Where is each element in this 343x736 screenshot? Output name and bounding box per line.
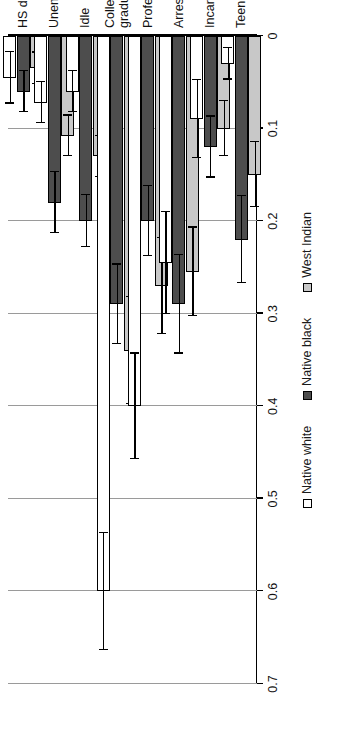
error-bar-line: [86, 195, 87, 247]
error-bar-line: [68, 116, 69, 157]
legend-item-native-black: Native black: [300, 318, 314, 400]
error-bar-cap: [237, 195, 246, 196]
category-label-unemployed: Unemployed: [39, 0, 70, 28]
gridline-0.7: [8, 683, 257, 684]
category-label-professional: Professional: [133, 0, 164, 28]
error-bar-cap: [237, 282, 246, 283]
error-bar-cap: [50, 232, 59, 233]
error-bar-cap: [206, 176, 215, 177]
legend-swatch-icon: [303, 499, 312, 508]
error-bar-line: [241, 196, 242, 283]
axis-tick: [257, 497, 263, 498]
error-bar-cap: [157, 333, 166, 334]
bar-native-white: [128, 36, 141, 406]
error-bar-cap: [192, 79, 201, 80]
error-bar-cap: [50, 171, 59, 172]
error-bar-line: [197, 80, 198, 158]
axis-tick: [257, 312, 263, 313]
error-bar-cap: [5, 51, 14, 52]
error-bar-line: [165, 212, 166, 314]
error-bar-line: [228, 48, 229, 79]
error-bar-line: [179, 255, 180, 353]
error-bar-line: [10, 52, 11, 104]
error-bar-cap: [5, 102, 14, 103]
value-tick-label: 0.5: [266, 481, 280, 517]
value-tick-label: 0: [266, 18, 280, 54]
error-bar-cap: [143, 255, 152, 256]
gridline-0.6: [8, 590, 257, 591]
bar-chart-figure: 00.10.20.30.40.50.60.7 HS dropoutUnemplo…: [0, 0, 343, 736]
error-bar-cap: [219, 100, 228, 101]
error-bar-cap: [174, 254, 183, 255]
error-bar-cap: [81, 246, 90, 247]
category-separator-tick: [36, 35, 42, 36]
error-bar-line: [72, 71, 73, 112]
bar-native-white: [97, 36, 110, 591]
error-bar-line: [134, 354, 135, 460]
error-bar-cap: [206, 115, 215, 116]
category-separator-tick: [161, 35, 167, 36]
error-bar-cap: [81, 194, 90, 195]
category-label-idle: Idle: [70, 0, 101, 28]
axis-tick: [257, 590, 263, 591]
error-bar-cap: [68, 111, 77, 112]
axis-tick: [257, 683, 263, 684]
category-label-teen-parent: Teen parent: [226, 0, 257, 28]
error-bar-line: [255, 142, 256, 207]
error-bar-cap: [36, 81, 45, 82]
error-bar-cap: [99, 649, 108, 650]
error-bar-cap: [19, 111, 28, 112]
category-separator-tick: [192, 35, 198, 36]
category-separator-tick: [223, 35, 229, 36]
error-bar-cap: [63, 114, 72, 115]
error-bar-line: [210, 117, 211, 178]
value-tick-label: 0.3: [266, 296, 280, 332]
error-bar-line: [192, 228, 193, 317]
rotated-figure-container: 00.10.20.30.40.50.60.7 HS dropoutUnemplo…: [0, 0, 343, 736]
chart-legend: Native whiteNative blackWest Indian: [300, 36, 314, 684]
plot-area: [8, 36, 257, 684]
axis-tick: [257, 405, 263, 406]
error-bar-cap: [130, 458, 139, 459]
error-bar-cap: [130, 352, 139, 353]
legend-label: Native black: [300, 318, 314, 386]
error-bar-cap: [19, 70, 28, 71]
error-bar-cap: [188, 226, 197, 227]
value-tick-label: 0.1: [266, 111, 280, 147]
category-separator-tick: [67, 35, 73, 36]
error-bar-cap: [63, 155, 72, 156]
legend-swatch-icon: [303, 391, 312, 400]
value-tick-label: 0.2: [266, 203, 280, 239]
error-bar-line: [224, 101, 225, 157]
error-bar-cap: [112, 263, 121, 264]
gridline-0.5: [8, 498, 257, 499]
error-bar-cap: [223, 47, 232, 48]
error-bar-line: [148, 186, 149, 256]
legend-item-native-white: Native white: [300, 426, 314, 508]
error-bar-cap: [161, 211, 170, 212]
error-bar-line: [23, 71, 24, 112]
error-bar-cap: [99, 532, 108, 533]
error-bar-line: [117, 265, 118, 345]
error-bar-cap: [174, 352, 183, 353]
error-bar-cap: [161, 313, 170, 314]
error-bar-cap: [250, 141, 259, 142]
value-tick-label: 0.4: [266, 388, 280, 424]
error-bar-cap: [143, 185, 152, 186]
error-bar-cap: [250, 206, 259, 207]
legend-label: West Indian: [300, 212, 314, 278]
error-bar-cap: [223, 78, 232, 79]
legend-label: Native white: [300, 426, 314, 494]
error-bar-cap: [36, 122, 45, 123]
error-bar-cap: [112, 343, 121, 344]
error-bar-cap: [219, 155, 228, 156]
category-separator-tick: [98, 35, 104, 36]
category-label-incarcerated: Incarcerated: [195, 0, 226, 28]
error-bar-line: [54, 172, 55, 233]
legend-swatch-icon: [303, 283, 312, 292]
category-label-arrested: Arrested: [164, 0, 195, 28]
error-bar-cap: [68, 70, 77, 71]
category-label-college-graduate: College graduate: [101, 0, 134, 28]
error-bar-cap: [188, 315, 197, 316]
error-bar-cap: [192, 157, 201, 158]
